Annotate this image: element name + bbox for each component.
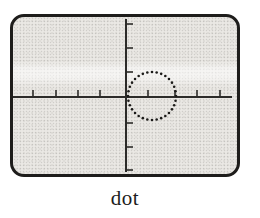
figure-caption: dot (10, 185, 240, 211)
graticule-axes (13, 19, 232, 172)
oscilloscope-screen (10, 14, 240, 177)
graticule-svg (13, 17, 237, 174)
oscilloscope-figure: dot (0, 0, 260, 218)
